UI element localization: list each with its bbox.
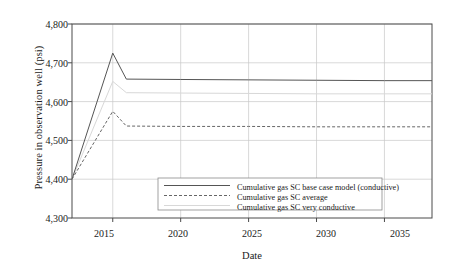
legend-label-2: Cumulative gas SC very conductive [237, 204, 355, 212]
plot-area [0, 0, 452, 270]
legend-label-0: Cumulative gas SC base case model (condu… [237, 184, 399, 192]
legend-label-1: Cumulative gas SC average [237, 194, 328, 202]
data-series-layer [72, 53, 432, 179]
series-line [72, 53, 432, 179]
series-line [72, 111, 432, 179]
series-line [72, 81, 432, 179]
chart-figure: Pressure in observation well (psi) 4,800… [0, 0, 452, 270]
